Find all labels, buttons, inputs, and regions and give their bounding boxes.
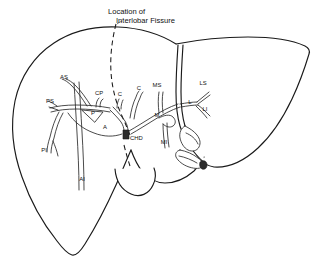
label-CHD: CHD xyxy=(130,135,143,141)
common-hepatic-duct-node xyxy=(123,130,129,139)
liver-anatomy-diagram: Location of Interlobar Fissure AS CP C C… xyxy=(0,0,321,269)
label-C-1: C xyxy=(118,91,123,97)
caption-line-1: Location of xyxy=(108,7,146,16)
label-PS: PS xyxy=(46,98,54,104)
mi-duct-right xyxy=(167,123,169,147)
label-CP: CP xyxy=(95,90,103,96)
label-LS: LS xyxy=(199,80,206,86)
liver-diagram-canvas: Location of Interlobar Fissure AS CP C C… xyxy=(0,0,321,269)
label-A: A xyxy=(103,124,107,130)
label-AI: AI xyxy=(79,176,85,182)
ms-duct-right xyxy=(162,92,163,113)
label-P: P xyxy=(91,110,95,116)
label-LI: LI xyxy=(203,106,208,112)
gallbladder-fundus xyxy=(115,168,155,196)
caption-line-2: Interlobar Fissure xyxy=(116,16,175,25)
label-C-2: C xyxy=(137,85,142,91)
label-MS: MS xyxy=(153,82,162,88)
label-PI: PI xyxy=(41,147,47,153)
label-M: M xyxy=(155,112,160,118)
label-AS: AS xyxy=(60,74,68,80)
left-lobe-outline xyxy=(13,27,176,255)
duct-terminus-node xyxy=(200,161,207,170)
ms-duct-left xyxy=(158,92,159,113)
label-MI: MI xyxy=(161,139,168,145)
